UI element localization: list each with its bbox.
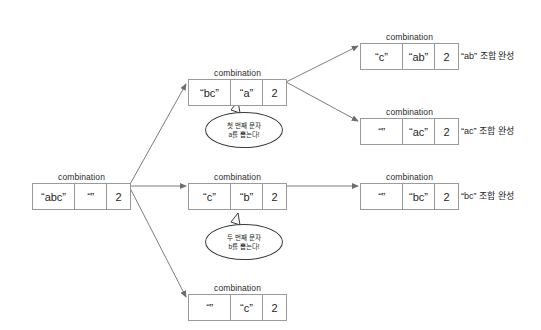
cell-remaining: “” [361,184,403,209]
node-box[interactable]: “c” “ab” 2 [360,43,459,70]
node-box[interactable]: “” “ac” 2 [360,118,459,145]
node-branch-b[interactable]: combination “c” “b” 2 [188,172,287,210]
node-root[interactable]: combination “abc” “” 2 [32,172,131,210]
node-caption: combination [188,172,287,183]
cell-remaining: “” [189,295,231,320]
cell-remaining: “bc” [189,80,231,105]
result-label-bc: “bc” 조합 완성 [461,183,514,210]
bubble-line-1: 첫 번째 문자 [227,121,261,130]
edge-layer [0,0,541,330]
node-leaf-ac[interactable]: combination “” “ac” 2 [360,107,459,145]
bubble-line-2: a를 뽑는다! [228,130,259,139]
node-leaf-ab[interactable]: combination “c” “ab” 2 [360,32,459,70]
cell-length: 2 [435,184,458,209]
cell-length: 2 [107,184,130,209]
cell-remaining: “abc” [33,184,75,209]
bubble-line-2: b를 뽑는다! [228,242,259,251]
node-branch-a[interactable]: combination “bc” “a” 2 [188,68,287,106]
node-caption: combination [188,68,287,79]
edge-branch-a-to-leaf-ab [286,46,358,82]
node-caption: combination [32,172,131,183]
cell-length: 2 [435,119,458,144]
node-box[interactable]: “abc” “” 2 [32,183,131,210]
edge-branch-a-to-leaf-ac [286,82,358,121]
result-label-ab: “ab” 조합 완성 [461,43,514,70]
node-caption: combination [188,283,287,294]
cell-remaining: “c” [189,184,231,209]
edge-root-to-branch-a [129,84,186,186]
cell-remaining: “c” [361,44,403,69]
cell-length: 2 [263,80,286,105]
cell-current: “c” [231,295,263,320]
node-caption: combination [360,172,459,183]
node-box[interactable]: “bc” “a” 2 [188,79,287,106]
cell-current: “” [75,184,107,209]
cell-remaining: “” [361,119,403,144]
cell-length: 2 [263,184,286,209]
cell-current: “ab” [403,44,435,69]
diagram-canvas: combination “abc” “” 2 combination “bc” … [0,0,541,330]
node-box[interactable]: “c” “b” 2 [188,183,287,210]
result-label-ac: “ac” 조합 완성 [461,118,514,145]
cell-current: “b” [231,184,263,209]
node-caption: combination [360,32,459,43]
node-caption: combination [360,107,459,118]
node-branch-c[interactable]: combination “” “c” 2 [188,283,287,321]
cell-current: “ac” [403,119,435,144]
node-box[interactable]: “” “bc” 2 [360,183,459,210]
bubble-line-1: 두 번째 문자 [227,233,261,242]
speech-bubble-second-char: 두 번째 문자 b를 뽑는다! [205,224,283,260]
edge-root-to-branch-c [129,186,186,297]
cell-length: 2 [435,44,458,69]
node-leaf-bc[interactable]: combination “” “bc” 2 [360,172,459,210]
node-box[interactable]: “” “c” 2 [188,294,287,321]
cell-current: “bc” [403,184,435,209]
cell-length: 2 [263,295,286,320]
cell-current: “a” [231,80,263,105]
speech-bubble-first-char: 첫 번째 문자 a를 뽑는다! [205,112,283,148]
